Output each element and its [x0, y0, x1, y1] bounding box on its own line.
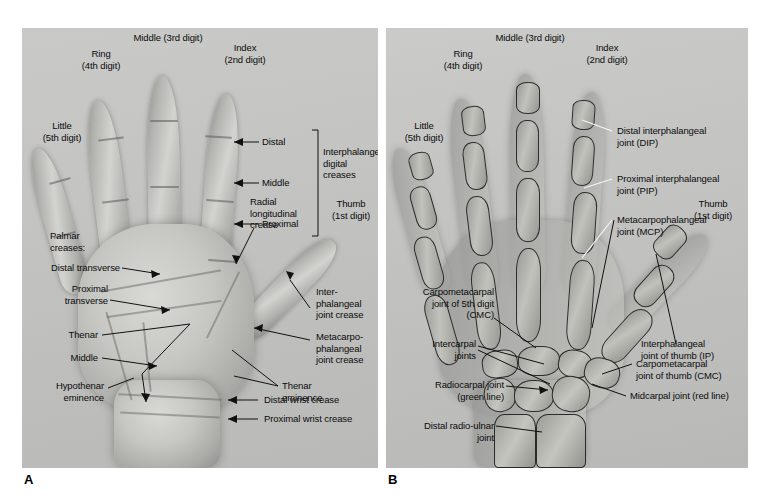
- carpal-lunate: [514, 380, 554, 412]
- bone-middle-proximal-phalanx: [516, 178, 540, 242]
- label-crease-middle: Middle: [262, 177, 289, 189]
- label-proximal-wrist-crease: Proximal wrist crease: [264, 413, 352, 425]
- label-distal-radio-ulnar-joint: Distal radio-ulnar joint: [386, 420, 494, 443]
- crease-middle-pip: [150, 186, 179, 188]
- label-metacarpophalangeal-joint-crease: Metacarpo- phalangeal joint crease: [316, 331, 363, 366]
- label-intercarpal-joints: Intercarpal joints: [386, 338, 476, 361]
- label-distal-transverse: Distal transverse: [22, 262, 120, 274]
- label-radiocarpal-joint: Radiocarpal joint (green line): [386, 379, 504, 402]
- label-index-digit-a: Index (2nd digit): [190, 42, 300, 65]
- panel-b-letter: B: [388, 472, 397, 487]
- crease-middle-dip: [150, 120, 178, 122]
- carpal-capitate: [518, 346, 560, 376]
- label-crease-distal: Distal: [262, 136, 285, 148]
- label-radial-longitudinal-crease: Radial longitudinal crease: [250, 196, 297, 231]
- label-interphalangeal-digital-creases: Interphalangeal digital creases: [323, 146, 378, 181]
- label-little-digit-b: Little (5th digit): [386, 120, 468, 143]
- label-proximal-transverse: Proximal transverse: [22, 283, 108, 306]
- label-pip-joint: Proximal interphalangeal joint (PIP): [617, 173, 719, 196]
- bone-ulna: [494, 414, 536, 468]
- bone-middle-middle-phalanx: [516, 120, 539, 172]
- label-interphalangeal-joint-crease: Inter- phalangeal joint crease: [316, 286, 363, 321]
- panel-a-letter: A: [24, 472, 33, 487]
- bone-3rd-metacarpal: [516, 248, 541, 342]
- label-cmc-joint-thumb: Carpometacarpal joint of thumb (CMC): [636, 358, 722, 381]
- label-hypothenar-eminence: Hypothenar eminence: [22, 380, 104, 403]
- bone-radius: [536, 414, 586, 468]
- label-little-digit-a: Little (5th digit): [22, 120, 106, 143]
- label-middle-crease: Middle: [22, 352, 98, 364]
- label-ring-digit-a: Ring (4th digit): [54, 48, 148, 71]
- label-midcarpal-joint: Midcarpal joint (red line): [630, 390, 729, 402]
- bone-index-middle-phalanx: [570, 135, 595, 186]
- label-thumb-digit-a: Thumb (1st digit): [316, 198, 378, 221]
- bone-index-distal-phalanx: [571, 99, 596, 131]
- label-ring-digit-b: Ring (4th digit): [416, 48, 510, 71]
- panel-b-radiograph: Middle (3rd digit) Index (2nd digit) Rin…: [386, 28, 748, 468]
- label-dip-joint: Distal interphalangeal joint (DIP): [617, 125, 706, 148]
- label-mcp-joint: Metacarpophalangeal joint (MCP): [617, 214, 706, 237]
- bone-middle-distal-phalanx: [516, 82, 540, 114]
- label-palmar-creases-heading: Palmar creases:: [50, 230, 85, 253]
- panel-a-palmar-photo: Middle (3rd digit) Index (2nd digit) Rin…: [22, 28, 378, 468]
- label-index-digit-b: Index (2nd digit): [552, 42, 662, 65]
- label-thenar-crease: Thenar: [22, 329, 98, 341]
- figure-hand-anatomy: Middle (3rd digit) Index (2nd digit) Rin…: [0, 0, 768, 501]
- label-cmc-joint-5th-digit: Carpometacarpal joint of 5th digit (CMC): [386, 286, 494, 321]
- label-distal-wrist-crease: Distal wrist crease: [264, 394, 339, 406]
